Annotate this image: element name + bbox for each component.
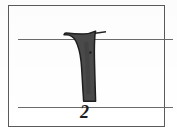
calligraphy-figure: 2 (0, 0, 177, 136)
vertical-stem-stroke-icon (60, 26, 110, 106)
step-number-label: 2 (0, 102, 177, 122)
